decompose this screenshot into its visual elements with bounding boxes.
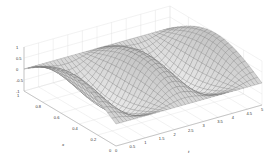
x-tick-label: 0.5 <box>130 144 136 149</box>
x-tick-label: 2 <box>173 132 176 137</box>
z-tick-label: -1 <box>16 89 20 94</box>
surface-plot: 00.511.522.533.544.5500.20.40.60.81-1-0.… <box>0 0 271 158</box>
x-tick-label: 4 <box>232 115 235 120</box>
x-tick-label: 3 <box>203 123 206 128</box>
x-axis-label: t <box>188 149 190 154</box>
x-tick-label: 4.5 <box>246 111 252 116</box>
y-tick-label: 1 <box>17 93 20 98</box>
x-tick-label: 5 <box>261 107 264 112</box>
y-tick-label: 0.4 <box>72 126 78 131</box>
z-tick-label: -0.5 <box>16 78 24 83</box>
x-tick-label: 3.5 <box>217 119 223 124</box>
y-axis-label: x <box>61 142 65 147</box>
y-tick-label: 0 <box>109 148 112 153</box>
x-tick-label: 0 <box>115 148 118 153</box>
z-tick-label: 0.5 <box>16 56 22 61</box>
y-tick-label: 0.8 <box>35 104 41 109</box>
y-tick-label: 0.2 <box>91 137 97 142</box>
y-tick-label: 0.6 <box>54 115 60 120</box>
x-tick-label: 2.5 <box>188 128 194 133</box>
x-tick-label: 1 <box>144 140 147 145</box>
z-tick-label: 0 <box>16 67 19 72</box>
z-tick-label: 1 <box>16 45 19 50</box>
x-tick-label: 1.5 <box>159 136 165 141</box>
